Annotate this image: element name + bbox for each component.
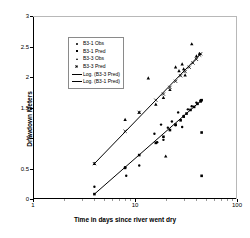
x-minor-tick <box>119 199 120 201</box>
legend-label: B3-1 Pred <box>83 48 106 55</box>
legend-item-b33-obs: B3-3 Obs <box>71 55 120 63</box>
x-minor-tick <box>184 199 185 201</box>
x-minor-tick <box>166 199 167 201</box>
x-tick-label: 10 <box>132 202 139 208</box>
legend-label: B3-1 Obs <box>83 40 104 47</box>
legend-marker-square-icon <box>71 50 83 52</box>
y-tick-mark <box>30 108 33 109</box>
x-minor-tick <box>125 199 126 201</box>
y-tick-mark <box>30 47 33 48</box>
chart-container: Drawdown Meters Time in days since river… <box>0 0 250 238</box>
x-minor-tick <box>104 199 105 201</box>
legend-marker-x-icon <box>71 65 83 68</box>
y-tick-mark <box>30 138 33 139</box>
x-tick-label: 100 <box>232 202 242 208</box>
plot-top-border <box>33 16 237 17</box>
x-minor-tick <box>196 199 197 201</box>
y-tick-mark <box>30 77 33 78</box>
x-minor-tick <box>221 199 222 201</box>
x-minor-tick <box>94 199 95 201</box>
y-tick-mark <box>30 169 33 170</box>
x-minor-tick <box>130 199 131 201</box>
x-axis-title: Time in days since river went dry <box>0 216 250 223</box>
plot-right-border <box>236 16 237 199</box>
x-minor-tick <box>232 199 233 201</box>
chart-legend: B3-1 Obs B3-1 Pred B3-3 Obs B3-3 Pred Lo… <box>68 37 124 89</box>
legend-label: Log. (B3-1 Pred) <box>83 78 120 85</box>
legend-item-log-b31-pred: Log. (B3-1 Pred) <box>71 78 120 86</box>
y-tick-mark <box>30 16 33 17</box>
x-minor-tick <box>206 199 207 201</box>
legend-item-b33-pred: B3-3 Pred <box>71 63 120 71</box>
legend-marker-dot-icon <box>71 43 83 45</box>
legend-marker-triangle-icon <box>71 58 83 60</box>
x-minor-tick <box>64 199 65 201</box>
legend-item-log-b33-pred: Log. (B3-3 Pred) <box>71 70 120 78</box>
legend-marker-line-icon <box>71 81 83 82</box>
x-minor-tick <box>82 199 83 201</box>
legend-marker-line-icon <box>71 74 83 75</box>
plot-area <box>33 16 237 199</box>
legend-label: B3-3 Obs <box>83 55 104 62</box>
legend-label: Log. (B3-3 Pred) <box>83 71 120 78</box>
legend-item-b31-obs: B3-1 Obs <box>71 40 120 48</box>
legend-label: B3-3 Pred <box>83 63 106 70</box>
x-minor-tick <box>112 199 113 201</box>
x-minor-tick <box>214 199 215 201</box>
x-minor-tick <box>227 199 228 201</box>
legend-item-b31-pred: B3-1 Pred <box>71 48 120 56</box>
x-tick-label: 1 <box>31 202 34 208</box>
